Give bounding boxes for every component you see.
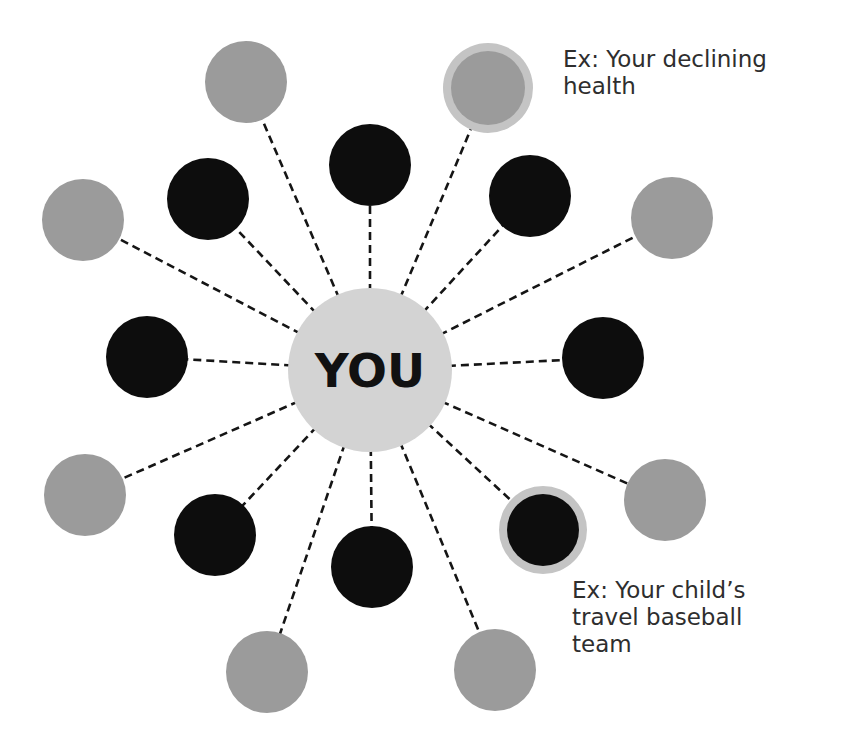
node-black-upper-right <box>489 155 571 237</box>
gray-circle <box>226 631 308 713</box>
gray-circle <box>624 459 706 541</box>
annotation-travel-baseball: Ex: Your child’s travel baseball team <box>572 577 746 658</box>
black-circle <box>331 526 413 608</box>
node-black-upper-left <box>167 158 249 240</box>
node-gray-top-left <box>205 41 287 123</box>
gray-circle <box>44 454 126 536</box>
black-circle <box>167 158 249 240</box>
annotation-declining-health: Ex: Your declining health <box>563 46 767 100</box>
node-gray-bottom-right <box>454 629 536 711</box>
black-circle <box>507 494 579 566</box>
black-circle <box>329 124 411 206</box>
center-label-you: YOU <box>288 288 452 452</box>
node-black-left <box>106 316 188 398</box>
diagram-canvas: YOU Ex: Your declining health Ex: Your c… <box>0 0 844 754</box>
gray-circle <box>451 51 525 125</box>
node-gray-bottom-left <box>226 631 308 713</box>
gray-circle <box>631 177 713 259</box>
node-gray-left-lower <box>44 454 126 536</box>
node-gray-top-right-highlighted <box>443 43 533 133</box>
gray-circle <box>454 629 536 711</box>
node-black-right <box>562 317 644 399</box>
node-black-lower-left <box>174 494 256 576</box>
black-circle <box>489 155 571 237</box>
node-gray-right-lower <box>624 459 706 541</box>
black-circle <box>106 316 188 398</box>
node-black-bottom <box>331 526 413 608</box>
black-circle <box>174 494 256 576</box>
black-circle <box>562 317 644 399</box>
node-black-top <box>329 124 411 206</box>
gray-circle <box>205 41 287 123</box>
node-gray-left-upper <box>42 179 124 261</box>
node-black-lower-right-highlighted <box>499 486 587 574</box>
node-gray-right-upper <box>631 177 713 259</box>
gray-circle <box>42 179 124 261</box>
